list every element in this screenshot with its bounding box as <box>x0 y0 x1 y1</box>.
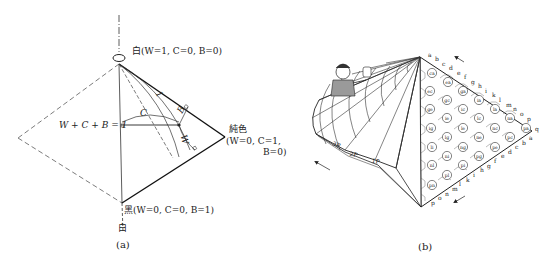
c-variable: C <box>140 108 147 118</box>
hex-cell: pc <box>505 132 514 141</box>
svg-text:h: h <box>478 82 482 89</box>
svg-text:i: i <box>473 171 475 178</box>
svg-text:m: m <box>452 185 458 192</box>
svg-text:a: a <box>428 51 432 58</box>
svg-text:k: k <box>492 91 496 98</box>
hex-cell: pi <box>458 160 467 169</box>
hex-cell: pe <box>490 142 499 151</box>
hex-cell: pa <box>521 123 530 132</box>
svg-text:le: le <box>461 126 465 131</box>
hex-cell: li <box>427 142 436 151</box>
sum-label: W + C + B = 1 <box>59 120 127 130</box>
svg-text:l: l <box>499 96 501 103</box>
svg-text:pl: pl <box>445 173 450 178</box>
hex-cell: lg <box>442 132 451 141</box>
svg-text:l: l <box>459 180 461 187</box>
svg-text:ea: ea <box>445 80 451 85</box>
hex-cell: ec <box>425 86 434 95</box>
svg-text:o: o <box>438 194 442 201</box>
hex-cell: pg <box>474 151 483 160</box>
hex-cell: ie <box>442 113 451 122</box>
svg-text:n: n <box>445 190 449 197</box>
hex-cell: nc <box>490 123 499 132</box>
lower-edge-arrow-icon <box>455 196 465 202</box>
svg-text:c: c <box>442 60 446 67</box>
caption-b: (b) <box>418 241 432 252</box>
hex-cell: ge <box>425 104 434 113</box>
svg-text:g: g <box>471 78 475 86</box>
svg-text:lc: lc <box>477 116 481 121</box>
svg-text:li: li <box>431 145 434 150</box>
white-vertex-label: 白(W=1, C=0, B=0) <box>132 45 222 56</box>
hex-cell: pl <box>442 170 451 179</box>
fan-direction-arrow-icon <box>316 162 330 170</box>
axis-center <box>119 64 122 203</box>
page-label-1p: 1P <box>371 157 380 165</box>
svg-text:g: g <box>487 162 491 170</box>
figure-b-diagram: 3P 2P 1P a b c d e f g h i k l m n o p q… <box>312 51 539 252</box>
svg-text:pn: pn <box>429 183 435 188</box>
svg-text:nl: nl <box>430 163 435 168</box>
hex-cell: ia <box>474 95 483 104</box>
hex-cell: ni <box>442 151 451 160</box>
svg-text:f: f <box>494 157 497 164</box>
black-vertex-label: 黑(W=0, C=0, B=1) <box>124 205 214 215</box>
svg-text:h: h <box>480 166 484 173</box>
hex-cell: ig <box>426 123 435 132</box>
pure-color-label: 純色 <box>229 123 247 134</box>
caption-a: (a) <box>116 239 130 250</box>
dashed-left-lower-edge <box>18 138 122 203</box>
svg-text:p: p <box>527 115 531 123</box>
svg-text:na: na <box>507 116 513 121</box>
hex-cell: ga <box>458 86 467 95</box>
svg-text:n: n <box>513 105 517 112</box>
svg-text:ec: ec <box>427 89 433 94</box>
hex-cell: ea <box>443 77 452 86</box>
svg-text:p: p <box>431 199 435 207</box>
svg-text:ie: ie <box>445 116 449 121</box>
svg-text:f: f <box>464 73 467 80</box>
rotation-arrow-icon <box>113 55 125 62</box>
svg-text:la: la <box>493 107 497 112</box>
hex-cell: ca <box>427 68 436 77</box>
right-vertex-letter: q <box>535 125 539 133</box>
b-variable: B <box>175 104 188 116</box>
pure-color-values-2: B=0) <box>263 147 286 157</box>
svg-text:e: e <box>501 152 505 159</box>
svg-text:pa: pa <box>523 126 529 131</box>
svg-text:i: i <box>485 87 487 94</box>
second-figure <box>363 67 371 77</box>
svg-text:ic: ic <box>461 107 465 112</box>
svg-text:e: e <box>457 69 461 76</box>
hex-cell: gc <box>442 95 451 104</box>
svg-text:ca: ca <box>429 71 435 76</box>
child-shirt <box>331 80 355 96</box>
svg-text:pe: pe <box>492 145 498 150</box>
svg-text:d: d <box>508 148 512 155</box>
hex-cell: ng <box>458 142 467 151</box>
svg-text:d: d <box>449 64 453 71</box>
hex-cell: la <box>490 104 499 113</box>
child-hair <box>336 64 350 68</box>
svg-text:ni: ni <box>445 154 450 159</box>
svg-text:k: k <box>466 176 470 183</box>
svg-text:b: b <box>435 55 439 62</box>
figure-canvas: 白(W=1, C=0, B=0) W + C + B = 1 純色 (W=0, … <box>0 0 548 262</box>
hex-cell: pn <box>427 180 436 189</box>
hex-cell: ne <box>474 132 483 141</box>
svg-text:m: m <box>506 101 512 108</box>
svg-text:c: c <box>515 143 519 150</box>
svg-text:pi: pi <box>461 163 466 168</box>
svg-text:ia: ia <box>477 98 481 103</box>
hex-cell: lc <box>474 113 483 122</box>
hex-cell: ic <box>458 104 467 113</box>
hex-cell: na <box>505 113 514 122</box>
edge-pure-to-black <box>122 137 225 203</box>
svg-text:a: a <box>529 134 533 141</box>
upper-edge-arrow-icon <box>456 57 464 62</box>
svg-text:o: o <box>520 110 524 117</box>
svg-text:b: b <box>522 139 526 146</box>
svg-text:nc: nc <box>492 126 498 131</box>
svg-text:ne: ne <box>476 135 482 140</box>
pure-color-values-1: (W=0, C=1, <box>226 136 281 146</box>
